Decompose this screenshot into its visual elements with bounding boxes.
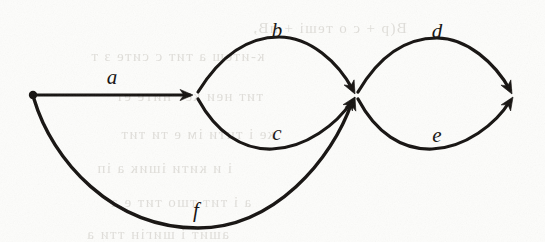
edge-label-e: e <box>432 123 441 148</box>
arrowhead-b <box>344 80 360 97</box>
arrowhead-d <box>501 80 517 97</box>
edge-label-b: b <box>272 18 283 43</box>
edge-label-a: a <box>107 65 118 90</box>
start-node <box>29 91 37 99</box>
edge-label-d: d <box>432 19 443 44</box>
edge-label-c: c <box>272 121 281 146</box>
nodes-group <box>29 91 37 99</box>
figure-canvas: Β(р + с ο теші + пВ,к-итеш а тит с сите … <box>0 0 545 242</box>
edge-d <box>358 38 510 92</box>
edge-label-f: f <box>193 198 199 223</box>
edge-b <box>198 37 353 92</box>
